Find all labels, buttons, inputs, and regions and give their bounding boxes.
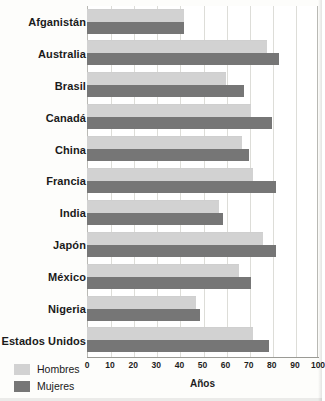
legend: Hombres Mujeres <box>14 361 94 395</box>
category-label: Afganistán <box>0 16 86 28</box>
legend-swatch-hombres <box>14 364 30 375</box>
bar-mujeres <box>87 85 244 97</box>
bar-row: Afganistán <box>0 6 322 38</box>
bar-mujeres <box>87 277 251 289</box>
category-label: China <box>0 144 86 156</box>
x-tick-label-80: 80 <box>267 360 276 370</box>
bar-group <box>87 197 318 229</box>
bar-hombres <box>87 136 242 149</box>
bar-group <box>87 102 318 134</box>
bar-row: Canadá <box>0 102 322 134</box>
x-tick-label-40: 40 <box>175 360 184 370</box>
bar-group <box>87 6 318 38</box>
bar-mujeres <box>87 340 269 352</box>
category-label: Estados Unidos <box>0 335 86 347</box>
x-tick-label-100: 100 <box>311 360 325 370</box>
bar-row: Brasil <box>0 70 322 102</box>
bar-row: Estados Unidos <box>0 325 322 357</box>
bar-group <box>87 38 318 70</box>
bar-hombres <box>87 9 184 22</box>
x-axis-line <box>87 357 319 358</box>
bar-row: India <box>0 197 322 229</box>
bar-group <box>87 70 318 102</box>
bar-group <box>87 134 318 166</box>
bar-hombres <box>87 40 267 53</box>
bar-group <box>87 229 318 261</box>
category-label: Japón <box>0 239 86 251</box>
legend-item-hombres: Hombres <box>14 361 94 377</box>
legend-label-hombres: Hombres <box>37 363 80 375</box>
category-label: Brasil <box>0 80 86 92</box>
bar-rows: AfganistánAustraliaBrasilCanadáChinaFran… <box>0 6 322 357</box>
x-tick-label-90: 90 <box>290 360 299 370</box>
category-label: India <box>0 207 86 219</box>
bar-group <box>87 293 318 325</box>
category-label: México <box>0 271 86 283</box>
bar-group <box>87 165 318 197</box>
bar-hombres <box>87 296 196 309</box>
x-axis-title: Años <box>87 378 318 389</box>
bar-hombres <box>87 200 219 213</box>
x-tick-label-20: 20 <box>128 360 137 370</box>
bar-hombres <box>87 168 253 181</box>
category-label: Canadá <box>0 112 86 124</box>
bar-group <box>87 261 318 293</box>
bar-mujeres <box>87 53 279 65</box>
bar-mujeres <box>87 213 223 225</box>
bar-row: Francia <box>0 165 322 197</box>
bar-row: México <box>0 261 322 293</box>
x-tick-label-70: 70 <box>244 360 253 370</box>
x-tick-label-10: 10 <box>105 360 114 370</box>
bar-mujeres <box>87 149 249 161</box>
bar-row: Australia <box>0 38 322 70</box>
bar-hombres <box>87 264 239 277</box>
bar-mujeres <box>87 181 276 193</box>
bar-row: Nigeria <box>0 293 322 325</box>
x-tick-label-60: 60 <box>221 360 230 370</box>
legend-item-mujeres: Mujeres <box>14 378 94 394</box>
bar-mujeres <box>87 117 272 129</box>
bar-row: China <box>0 134 322 166</box>
bar-group <box>87 325 318 357</box>
bar-mujeres <box>87 22 184 34</box>
bar-hombres <box>87 327 253 340</box>
legend-swatch-mujeres <box>14 381 30 392</box>
category-label: Australia <box>0 48 86 60</box>
category-label: Francia <box>0 175 86 187</box>
bar-mujeres <box>87 309 200 321</box>
bar-hombres <box>87 72 226 85</box>
legend-label-mujeres: Mujeres <box>37 380 74 392</box>
bar-mujeres <box>87 245 276 257</box>
x-tick-label-50: 50 <box>198 360 207 370</box>
bar-hombres <box>87 232 263 245</box>
bar-row: Japón <box>0 229 322 261</box>
bar-hombres <box>87 104 251 117</box>
x-tick-label-30: 30 <box>152 360 161 370</box>
category-label: Nigeria <box>0 303 86 315</box>
